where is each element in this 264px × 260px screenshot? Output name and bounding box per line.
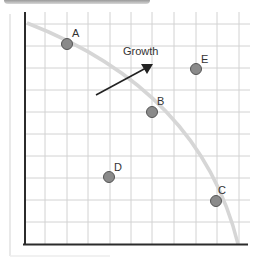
point-label-D: D [114,161,122,173]
point-B: B [147,95,165,118]
diagram-frame: Growth A B C D E [0,0,264,260]
point-label-E: E [201,53,208,65]
point-label-C: C [218,184,226,196]
ppf-diagram: Growth A B C D E [0,0,264,260]
point-E: E [191,53,209,75]
point-label-B: B [157,95,164,107]
point-D: D [104,161,123,183]
point-label-A: A [72,27,80,39]
growth-label: Growth [123,45,158,57]
